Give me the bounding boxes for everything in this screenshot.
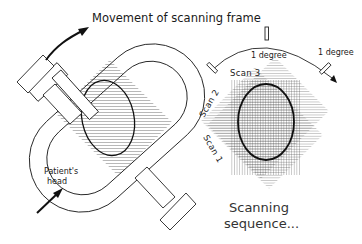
patient-label-line1: Patient's <box>44 167 78 176</box>
frame-position-2 <box>265 27 269 40</box>
patient-label-line2: head <box>47 177 67 186</box>
patient-pointer-arrow <box>37 193 58 213</box>
rotation-arrowhead <box>330 75 337 83</box>
scanning-diagram: Movement of scanning frame 1 degree 1 de… <box>0 0 362 244</box>
diagram-canvas: Movement of scanning frame 1 degree 1 de… <box>0 0 362 244</box>
rotation-label-2: 1 degree <box>318 48 354 57</box>
caption-line1: Scanning <box>229 200 289 215</box>
frame-bracket-lower <box>135 167 196 230</box>
rotation-label-1: 1 degree <box>251 51 287 60</box>
frame-motion-arrow <box>46 30 84 60</box>
frame-position-1 <box>207 62 218 73</box>
scan-3-label: Scan 3 <box>230 68 261 78</box>
frame-motion-arrowhead <box>78 27 89 36</box>
diagram-title: Movement of scanning frame <box>92 11 261 25</box>
caption-line2: sequence... <box>224 216 299 231</box>
